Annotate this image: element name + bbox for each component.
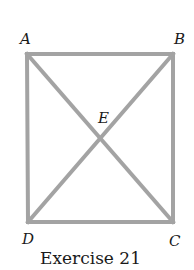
label-c: C [169, 232, 181, 250]
diagram-canvas: A B E D C Exercise 21 [0, 0, 194, 270]
label-a: A [18, 30, 31, 48]
figure-caption: Exercise 21 [40, 248, 141, 268]
square-abcd [27, 54, 173, 222]
side-da [27, 54, 28, 222]
label-b: B [173, 30, 185, 48]
label-d: D [21, 230, 34, 248]
label-e: E [97, 109, 109, 127]
